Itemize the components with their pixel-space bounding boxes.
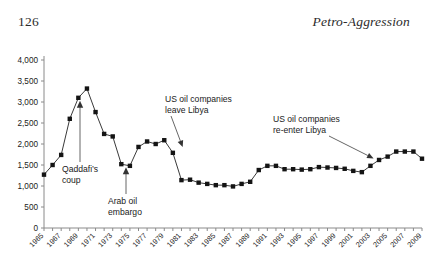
- annotation-leader: [171, 116, 180, 141]
- data-point-marker: [188, 178, 192, 182]
- y-tick-label: 1,500: [18, 161, 39, 170]
- data-point-marker: [179, 178, 183, 182]
- data-point-marker: [274, 164, 278, 168]
- x-tick-label: 1991: [251, 231, 269, 249]
- data-point-marker: [171, 151, 175, 155]
- x-tick-label: 1983: [182, 231, 200, 249]
- data-point-marker: [257, 168, 261, 172]
- data-point-marker: [351, 169, 355, 173]
- x-tick-label: 2005: [371, 231, 389, 249]
- x-tick-label: 1979: [148, 231, 166, 249]
- data-point-marker: [42, 172, 46, 176]
- data-point-marker: [50, 163, 54, 167]
- data-point-marker: [282, 167, 286, 171]
- x-tick-label: 1987: [216, 231, 234, 249]
- running-head: 126 Petro-Aggression: [0, 14, 430, 36]
- data-point-marker: [411, 149, 415, 153]
- x-tick-label: 1969: [62, 231, 80, 249]
- x-tick-label: 1997: [302, 231, 320, 249]
- annotation-label: leave Libya: [165, 105, 209, 115]
- annotation-label: Qaddafi’s: [62, 164, 98, 174]
- x-tick-label: 1995: [285, 231, 303, 249]
- chart-annotation: US oil companiesre-enter Libya: [273, 114, 374, 158]
- x-tick-label: 1999: [320, 231, 338, 249]
- x-tick-label: 2003: [354, 231, 372, 249]
- data-point-marker: [342, 167, 346, 171]
- data-point-marker: [222, 183, 226, 187]
- annotation-arrowhead: [123, 167, 129, 174]
- data-point-marker: [239, 182, 243, 186]
- y-tick-label: 1,000: [18, 182, 39, 191]
- data-point-marker: [93, 110, 97, 114]
- y-tick-label: 3,500: [18, 77, 39, 86]
- series-line: [44, 89, 422, 187]
- data-point-marker: [231, 184, 235, 188]
- data-point-marker: [317, 165, 321, 169]
- data-point-marker: [68, 117, 72, 121]
- data-point-marker: [265, 164, 269, 168]
- data-point-marker: [76, 96, 80, 100]
- x-tick-label: 1975: [113, 231, 131, 249]
- x-tick-label: 1989: [234, 231, 252, 249]
- data-point-marker: [360, 170, 364, 174]
- data-point-marker: [308, 167, 312, 171]
- x-tick-label: 2009: [405, 231, 423, 249]
- data-point-marker: [153, 142, 157, 146]
- data-point-marker: [385, 154, 389, 158]
- data-point-marker: [420, 157, 424, 161]
- data-point-marker: [248, 180, 252, 184]
- annotation-label: Arab oil: [108, 196, 137, 206]
- annotation-label: US oil companies: [165, 94, 232, 104]
- data-point-marker: [291, 167, 295, 171]
- x-tick-label: 1985: [199, 231, 217, 249]
- book-page: 126 Petro-Aggression 05001,0001,5002,000…: [0, 0, 430, 260]
- data-point-marker: [128, 164, 132, 168]
- data-point-marker: [325, 165, 329, 169]
- annotation-leader: [329, 136, 368, 155]
- annotation-label: embargo: [108, 207, 142, 217]
- data-point-marker: [162, 138, 166, 142]
- y-tick-label: 500: [24, 203, 38, 212]
- chart-annotation: US oil companiesleave Libya: [165, 94, 232, 147]
- x-tick-label: 1981: [165, 231, 183, 249]
- x-tick-label: 2001: [337, 231, 355, 249]
- data-point-marker: [377, 158, 381, 162]
- line-chart: 05001,0001,5002,0002,5003,0003,5004,0001…: [0, 46, 430, 260]
- y-tick-label: 3,000: [18, 98, 39, 107]
- data-point-marker: [214, 183, 218, 187]
- x-tick-label: 1973: [96, 231, 114, 249]
- annotation-label: re-enter Libya: [273, 125, 326, 135]
- book-title: Petro-Aggression: [313, 14, 410, 30]
- data-point-marker: [119, 162, 123, 166]
- data-point-marker: [196, 180, 200, 184]
- data-point-marker: [102, 132, 106, 136]
- data-point-marker: [334, 166, 338, 170]
- x-tick-label: 1967: [45, 231, 63, 249]
- y-tick-label: 4,000: [18, 56, 39, 65]
- y-tick-label: 2,500: [18, 119, 39, 128]
- data-point-marker: [136, 145, 140, 149]
- data-point-marker: [85, 86, 89, 90]
- x-tick-label: 1971: [79, 231, 97, 249]
- x-tick-label: 1965: [27, 231, 45, 249]
- chart-annotation: Qaddafi’scoup: [62, 101, 98, 185]
- annotation-arrowhead: [77, 101, 83, 108]
- figure-oil-production: 05001,0001,5002,0002,5003,0003,5004,0001…: [0, 46, 430, 260]
- data-point-marker: [59, 153, 63, 157]
- data-point-marker: [403, 149, 407, 153]
- annotation-label: US oil companies: [273, 114, 340, 124]
- data-point-marker: [111, 134, 115, 138]
- page-number: 126: [18, 14, 39, 30]
- annotation-arrowhead: [178, 140, 183, 147]
- data-point-marker: [145, 139, 149, 143]
- x-tick-label: 1993: [268, 231, 286, 249]
- x-tick-label: 1977: [131, 231, 149, 249]
- data-point-marker: [368, 164, 372, 168]
- data-point-marker: [205, 182, 209, 186]
- annotation-label: coup: [62, 175, 81, 185]
- x-tick-label: 2007: [388, 231, 406, 249]
- data-point-marker: [394, 149, 398, 153]
- chart-annotation: Arab oilembargo: [108, 167, 142, 216]
- y-tick-label: 2,000: [18, 140, 39, 149]
- data-point-marker: [300, 167, 304, 171]
